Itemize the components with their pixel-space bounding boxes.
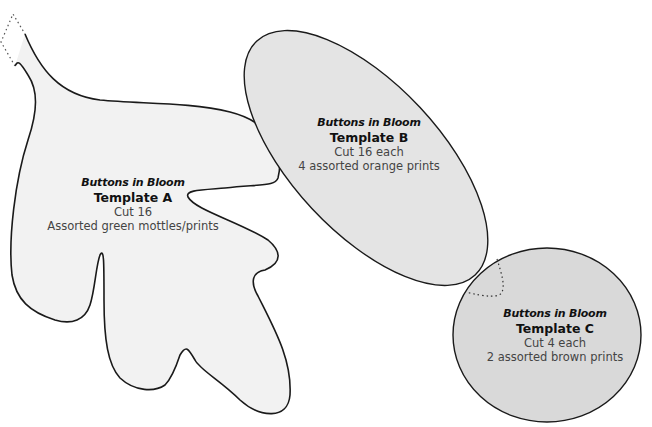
template-b-name: Template B	[298, 130, 439, 145]
template-c-series: Buttons in Bloom	[487, 307, 623, 321]
template-a-series: Buttons in Bloom	[47, 176, 218, 190]
template-b-cut: Cut 16 each	[298, 145, 439, 159]
template-c-name: Template C	[487, 321, 623, 336]
template-a-label: Buttons in Bloom Template A Cut 16 Assor…	[47, 176, 218, 233]
template-b-series: Buttons in Bloom	[298, 116, 439, 130]
template-c-label: Buttons in Bloom Template C Cut 4 each 2…	[487, 307, 623, 364]
template-a-fabric: Assorted green mottles/prints	[47, 219, 218, 233]
template-c-fabric: 2 assorted brown prints	[487, 350, 623, 364]
template-c-cut: Cut 4 each	[487, 336, 623, 350]
template-b-fabric: 4 assorted orange prints	[298, 159, 439, 173]
template-a-name: Template A	[47, 190, 218, 205]
template-a-cut: Cut 16	[47, 205, 218, 219]
template-b-label: Buttons in Bloom Template B Cut 16 each …	[298, 116, 439, 173]
